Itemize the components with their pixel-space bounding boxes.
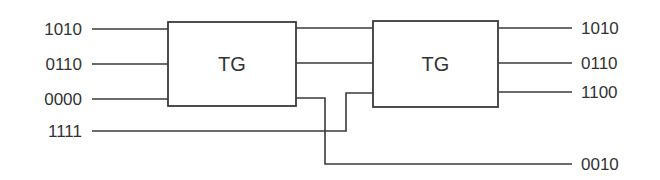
gate-label-tg1: TG: [168, 54, 296, 74]
input-label-0110: 0110: [2, 56, 82, 73]
gate-label-tg2: TG: [373, 54, 498, 74]
input-label-0000: 0000: [2, 91, 82, 108]
output-label-1010: 1010: [581, 20, 619, 37]
wires: [92, 28, 572, 164]
circuit-diagram: [0, 0, 660, 180]
input-label-1111: 1111: [2, 123, 82, 140]
output-label-0110: 0110: [581, 55, 618, 72]
output-label-1100: 1100: [581, 84, 618, 101]
input-label-1010: 1010: [2, 21, 82, 38]
output-label-0010: 0010: [581, 156, 619, 173]
